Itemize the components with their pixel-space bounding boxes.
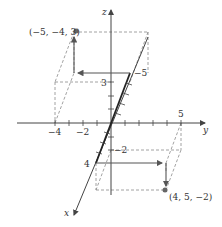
tick-z-3: 3 <box>101 78 107 88</box>
point-a-label: (−5, −4, 3) <box>29 27 80 37</box>
coordinate-diagram: (−5, −4, 3) (4, 5, −2) z y x −4 −2 5 3 −… <box>0 0 222 227</box>
tick-x-neg5: −5 <box>134 68 148 78</box>
point-b-marker <box>163 188 168 193</box>
box-point-b <box>96 123 181 190</box>
y-axis-label: y <box>202 125 209 135</box>
tick-y-neg2: −2 <box>76 127 89 137</box>
tick-z-neg2: −2 <box>114 145 127 155</box>
tick-x-4: 4 <box>84 159 90 169</box>
point-b-label: (4, 5, −2) <box>169 192 212 202</box>
x-axis-label: x <box>64 208 69 218</box>
tick-y-5: 5 <box>178 109 184 119</box>
z-axis-label: z <box>101 7 107 17</box>
tick-y-neg4: −4 <box>48 127 62 137</box>
